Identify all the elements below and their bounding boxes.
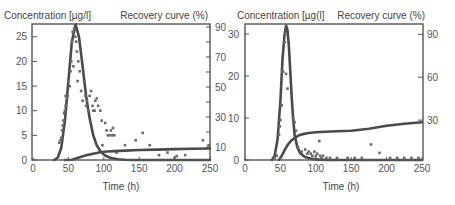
data-point-marker [286, 87, 289, 90]
x-tick-label: 50 [275, 163, 287, 174]
x-tick-label: 100 [307, 163, 324, 174]
data-point-marker [295, 129, 298, 132]
data-point-marker [283, 41, 286, 44]
y-left-tick-label: 0 [233, 155, 239, 166]
data-point-marker [278, 134, 281, 137]
right-plot-data [272, 26, 422, 160]
chart-right: 0501001502002500102030306090 Concentrati… [0, 0, 455, 205]
y-left-tick-label: 30 [228, 29, 240, 40]
right-xlabel-time: Time (h) [323, 181, 360, 192]
figure: 05010015020025005101520251030507090 Conc… [0, 0, 455, 205]
data-point-marker [316, 152, 319, 155]
x-tick-label: 200 [378, 163, 395, 174]
data-point-marker [279, 119, 282, 122]
right-ylabel-concentration: Concentration [µg(l] [237, 10, 325, 21]
y-right-tick-label: 60 [427, 72, 439, 83]
data-point-marker [336, 157, 339, 160]
data-point-marker [410, 157, 413, 160]
data-point-marker [292, 117, 295, 120]
data-point-marker [378, 152, 381, 155]
data-point-marker [304, 148, 307, 151]
right-plot-frame [245, 24, 423, 160]
data-point-marker [403, 157, 406, 160]
data-point-marker [329, 157, 332, 160]
data-point-marker [284, 33, 287, 36]
right-axis-ticks: 0501001502002500102030306090 [228, 29, 439, 175]
data-point-marker [285, 73, 288, 76]
data-point-marker [346, 157, 349, 160]
data-point-marker [276, 155, 279, 158]
x-tick-label: 150 [343, 163, 360, 174]
data-point-marker [417, 157, 420, 160]
y-right-tick-label: 90 [427, 29, 439, 40]
data-point-marker [313, 150, 316, 153]
right-ylabel-recovery: Recovery curve (%) [337, 10, 425, 21]
data-point-marker [311, 155, 314, 158]
y-right-tick-label: 30 [427, 115, 439, 126]
data-point-marker [300, 150, 303, 153]
data-point-marker [389, 157, 392, 160]
data-point-marker [318, 140, 321, 143]
data-point-marker [282, 71, 285, 74]
data-point-marker [325, 157, 328, 160]
x-tick-label: 0 [242, 163, 248, 174]
data-point-marker [322, 155, 325, 158]
data-point-marker [297, 146, 300, 149]
data-point-marker [281, 104, 284, 107]
data-point-marker [361, 157, 364, 160]
data-point-marker [353, 157, 356, 160]
data-point-marker [293, 121, 296, 124]
data-point-marker [278, 125, 281, 128]
data-point-marker [396, 157, 399, 160]
y-left-tick-label: 10 [228, 113, 240, 124]
x-tick-label: 250 [414, 163, 431, 174]
concentration-fit-curve [272, 26, 422, 160]
y-left-tick-label: 20 [228, 71, 240, 82]
data-point-marker [370, 143, 373, 146]
